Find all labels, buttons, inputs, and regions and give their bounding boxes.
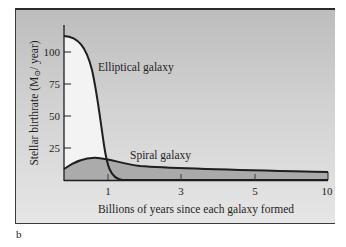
y-axis-title: Stellar birthrate (M⊙/ year) <box>28 40 42 165</box>
y-tick-label-50: 50 <box>49 110 61 122</box>
y-tick-label-25: 25 <box>49 142 61 154</box>
x-tick-label-1: 1 <box>105 185 111 197</box>
x-tick-label-3: 3 <box>178 185 184 197</box>
panel-label: b <box>16 228 22 240</box>
elliptical-galaxy-label: Elliptical galaxy <box>98 61 174 74</box>
y-tick-label-100: 100 <box>44 46 61 58</box>
spiral-galaxy-label: Spiral galaxy <box>130 149 191 162</box>
x-tick-label-5: 5 <box>252 185 258 197</box>
x-tick-label-10: 10 <box>322 185 334 197</box>
y-tick-label-75: 75 <box>49 78 61 90</box>
chart-svg: 100 75 50 25 1 3 5 10 Billions of years … <box>0 0 346 247</box>
x-axis-title: Billions of years since each galaxy form… <box>98 203 294 216</box>
